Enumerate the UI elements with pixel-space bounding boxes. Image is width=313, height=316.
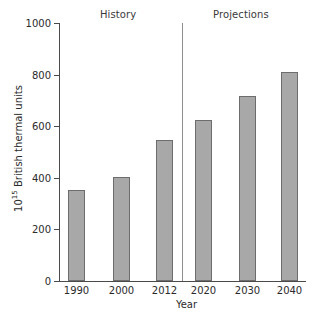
x-tick-label-2020: 2020 (184, 285, 224, 296)
x-tick-label-2040: 2040 (270, 285, 310, 296)
x-tick-label-2000: 2000 (102, 285, 142, 296)
y-tick-mark (54, 126, 59, 127)
y-tick-label: 800 (15, 69, 51, 80)
x-tick-label-2030: 2030 (228, 285, 268, 296)
history-section-label: History (100, 9, 136, 20)
projections-section-label: Projections (213, 9, 269, 20)
history-projections-divider (182, 23, 183, 281)
bar-2000 (113, 177, 130, 281)
y-tick-mark (54, 75, 59, 76)
bar-1990 (68, 190, 85, 281)
y-tick-mark (54, 178, 59, 179)
y-tick-label: 600 (15, 121, 51, 132)
y-tick-labels: 10008006004002000 (13, 0, 51, 316)
x-tick-label-2012: 2012 (145, 285, 185, 296)
bar-2040 (281, 72, 298, 281)
y-tick-mark (54, 229, 59, 230)
y-tick-mark (54, 281, 59, 282)
bar-chart: History Projections 1015 British thermal… (0, 0, 313, 316)
x-axis-title: Year (0, 299, 313, 310)
y-tick-label: 1000 (15, 18, 51, 29)
y-tick-mark (54, 23, 59, 24)
y-tick-label: 400 (15, 172, 51, 183)
bar-2020 (195, 120, 212, 281)
bar-2012 (156, 140, 173, 281)
y-tick-label: 200 (15, 224, 51, 235)
y-tick-label: 0 (15, 276, 51, 287)
bar-2030 (239, 96, 256, 281)
y-axis-line (59, 23, 60, 282)
x-tick-label-1990: 1990 (57, 285, 97, 296)
x-axis-line (59, 281, 306, 282)
